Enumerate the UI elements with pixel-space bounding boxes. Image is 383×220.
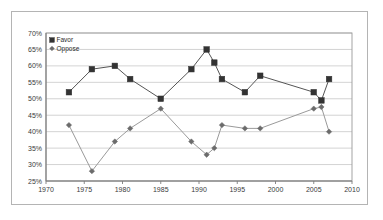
y-tick-label: 55% xyxy=(28,79,42,86)
legend-label-oppose: Oppose xyxy=(57,45,80,53)
y-tick-label: 25% xyxy=(28,178,42,185)
data-point-favor xyxy=(189,66,195,72)
x-tick-label: 2010 xyxy=(344,186,360,193)
line-chart: 25%30%35%40%45%50%55%60%65%70% 197019751… xyxy=(0,0,383,220)
x-tick-label: 2000 xyxy=(268,186,284,193)
y-tick-label: 35% xyxy=(28,145,42,152)
y-tick-label: 70% xyxy=(28,30,42,37)
x-tick-label: 1985 xyxy=(153,186,169,193)
x-tick-label: 1980 xyxy=(115,186,131,193)
data-point-favor xyxy=(311,89,317,95)
data-point-oppose xyxy=(326,129,331,134)
x-tick-label: 1970 xyxy=(38,186,54,193)
data-point-favor xyxy=(66,89,72,95)
y-tick-label: 60% xyxy=(28,62,42,69)
chart-svg: 25%30%35%40%45%50%55%60%65%70% 197019751… xyxy=(0,0,383,220)
x-axis-tick-labels: 197019751980198519901995200020052010 xyxy=(38,186,360,193)
data-point-favor xyxy=(219,76,225,82)
plot-area-border xyxy=(46,33,352,181)
chart-figure: 25%30%35%40%45%50%55%60%65%70% 197019751… xyxy=(0,0,383,220)
data-point-favor xyxy=(319,98,325,104)
y-axis-tick-labels: 25%30%35%40%45%50%55%60%65%70% xyxy=(28,30,42,185)
series-line-oppose xyxy=(69,107,329,171)
data-point-favor xyxy=(326,76,332,82)
data-point-favor xyxy=(158,96,164,102)
x-tick-label: 1975 xyxy=(76,186,92,193)
y-tick-label: 65% xyxy=(28,46,42,53)
data-point-favor xyxy=(127,76,133,82)
series-lines xyxy=(69,49,329,171)
data-point-oppose xyxy=(66,122,71,127)
y-tick-label: 45% xyxy=(28,112,42,119)
data-point-oppose xyxy=(319,104,324,109)
data-point-favor xyxy=(242,89,248,95)
y-tick-label: 50% xyxy=(28,95,42,102)
chart-legend: FavorOppose xyxy=(50,36,80,53)
x-tick-label: 1995 xyxy=(229,186,245,193)
legend-label-favor: Favor xyxy=(57,36,74,43)
x-tick-label: 2005 xyxy=(306,186,322,193)
series-line-favor xyxy=(69,49,329,100)
y-tick-label: 30% xyxy=(28,161,42,168)
data-point-oppose xyxy=(242,126,247,131)
data-point-oppose xyxy=(258,126,263,131)
data-point-favor xyxy=(257,73,263,79)
legend-marker-diamond-icon xyxy=(50,46,55,51)
data-point-oppose xyxy=(219,122,224,127)
data-point-favor xyxy=(212,60,218,66)
legend-marker-square-icon xyxy=(50,38,55,43)
data-point-favor xyxy=(204,47,210,53)
data-point-favor xyxy=(112,63,118,69)
x-tick-label: 1990 xyxy=(191,186,207,193)
data-point-favor xyxy=(89,66,95,72)
y-tick-label: 40% xyxy=(28,128,42,135)
gridlines xyxy=(46,33,352,181)
data-point-oppose xyxy=(311,106,316,111)
plot-area-rect xyxy=(46,33,352,181)
